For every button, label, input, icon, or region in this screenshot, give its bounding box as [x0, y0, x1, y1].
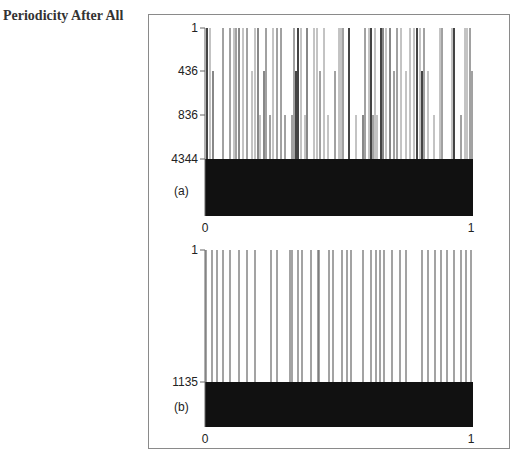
panel-a-xtick-0: 0: [202, 221, 209, 235]
panel-b-ytick-1: 1: [191, 243, 198, 257]
panel-a-bars: [207, 28, 472, 159]
panel-b-xtick-0: 0: [202, 432, 209, 446]
panel-b-bars: [206, 250, 471, 382]
panel-b-solid-block: [205, 382, 473, 427]
chart-canvas: 1 436 836 4344 (a) 0 1 1 1135 (b) 0 1: [0, 0, 531, 463]
panel-a-solid-block: [205, 159, 473, 216]
panel-a: 1 436 836 4344 (a) 0 1: [171, 21, 474, 235]
panel-b-label: (b): [174, 400, 189, 414]
panel-b-xtick-1: 1: [468, 432, 475, 446]
panel-a-label: (a): [174, 184, 189, 198]
panel-a-ytick-1: 1: [191, 21, 198, 35]
panel-a-xtick-1: 1: [468, 221, 475, 235]
panel-a-ytick-836: 836: [178, 108, 198, 122]
panel-a-ytick-4344: 4344: [171, 152, 198, 166]
panel-b: 1 1135 (b) 0 1: [172, 243, 474, 446]
panel-a-ytick-436: 436: [178, 64, 198, 78]
panel-b-ytick-1135: 1135: [172, 375, 198, 389]
